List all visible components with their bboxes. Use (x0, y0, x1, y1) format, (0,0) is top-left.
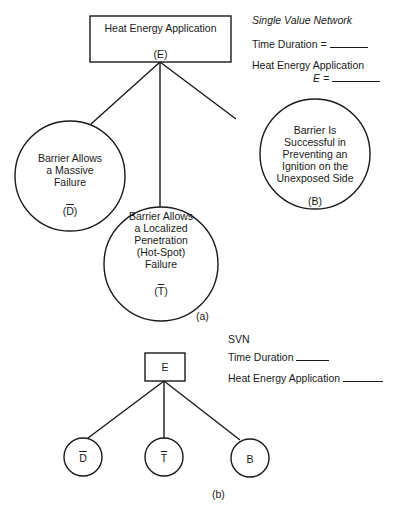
legend-heat-energy-a: Heat Energy Application (252, 59, 364, 71)
legend-heat-energy-b: Heat Energy Application (228, 372, 383, 384)
edge-a-d (91, 62, 160, 124)
node-b-a-text: Barrier Is Successful in Preventing an I… (258, 124, 372, 184)
node-t-line: (Hot-Spot) (106, 246, 216, 258)
node-t-line: Penetration (106, 234, 216, 246)
node-t-line: Barrier Allows (106, 210, 216, 222)
node-t-b-symbol: T (145, 452, 183, 464)
node-b-a-symbol: (B) (258, 195, 372, 207)
legend-title-a: Single Value Network (252, 14, 352, 26)
symbol-d-bar: D (66, 205, 74, 217)
symbol-t-bar: T (161, 452, 167, 464)
legend-title-b: SVN (228, 333, 250, 345)
node-b-b-symbol: B (231, 453, 269, 465)
node-b-line: Unexposed Side (258, 172, 372, 184)
caption-b: (b) (212, 488, 225, 500)
node-b-line: Successful in (258, 136, 372, 148)
time-duration-blank (330, 46, 368, 48)
time-duration-label: Time Duration = (252, 38, 327, 50)
legend-time-duration-b: Time Duration (228, 351, 329, 363)
heat-energy-label: Heat Energy Application (228, 372, 340, 384)
root-symbol-a: (E) (90, 48, 231, 60)
node-t-a-symbol: (T) (106, 285, 216, 297)
time-duration-label: Time Duration (228, 351, 294, 363)
node-d-line: a Massive (15, 164, 125, 176)
e-value-blank (332, 80, 380, 82)
edge-b-d (88, 381, 164, 438)
node-t-line: Failure (106, 258, 216, 270)
node-d-a-text: Barrier Allows a Massive Failure (15, 152, 125, 188)
node-d-line: Failure (15, 176, 125, 188)
node-d-line: Barrier Allows (15, 152, 125, 164)
edge-b-b (164, 381, 240, 440)
node-b-line: Ignition on the (258, 160, 372, 172)
node-b-line: Barrier Is (258, 124, 372, 136)
caption-a: (a) (196, 310, 209, 322)
legend-time-duration-a: Time Duration = (252, 38, 368, 50)
time-duration-blank (296, 359, 329, 361)
node-t-a-text: Barrier Allows a Localized Penetration (… (106, 210, 216, 270)
node-b-line: Preventing an (258, 148, 372, 160)
symbol-d-bar: D (79, 452, 87, 464)
root-label-a: Heat Energy Application (90, 22, 231, 34)
paren-close: ) (74, 205, 78, 217)
edge-a-b (160, 62, 236, 119)
node-d-b-symbol: D (64, 452, 102, 464)
node-t-line: a Localized (106, 222, 216, 234)
root-symbol-b: E (145, 361, 185, 373)
e-equals-label: E = (313, 72, 329, 84)
legend-e-equals-a: E = (313, 72, 380, 84)
heat-energy-blank (343, 380, 383, 382)
paren-close: ) (164, 285, 168, 297)
